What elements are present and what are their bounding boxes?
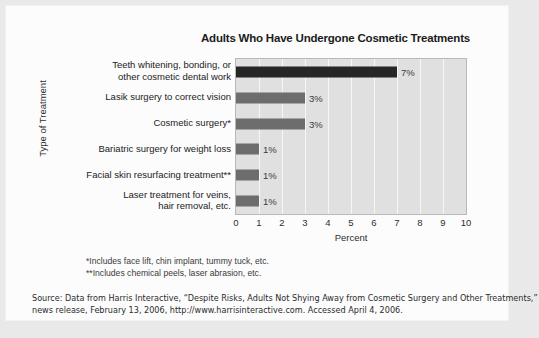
bar [236, 66, 397, 77]
x-tick-label: 5 [348, 217, 353, 228]
x-axis-title: Percent [235, 232, 467, 243]
bar [236, 196, 259, 207]
bar [236, 118, 305, 129]
x-tick-label: 6 [371, 217, 376, 228]
bar-row: 1% [236, 188, 466, 214]
bar-value-label: 1% [263, 196, 277, 207]
category-label: Bariatric surgery for weight loss [51, 143, 231, 155]
bar-row: 7% [236, 59, 466, 85]
footnote-two: **Includes chemical peels, laser abrasio… [86, 268, 261, 278]
bar-value-label: 3% [309, 92, 323, 103]
bar [236, 170, 259, 181]
source-line-2: news release, February 13, 2006, http://… [32, 305, 502, 317]
x-tick-label: 2 [279, 217, 284, 228]
x-tick-label: 1 [256, 217, 261, 228]
plot-area: 7%3%3%1%1%1% [235, 58, 467, 215]
page-background: Adults Who Have Undergone Cosmetic Treat… [0, 0, 539, 338]
bar-row: 3% [236, 85, 466, 111]
x-tick-label: 3 [302, 217, 307, 228]
x-tick-label: 9 [440, 217, 445, 228]
bar-value-label: 7% [401, 66, 415, 77]
x-tick-label: 4 [325, 217, 330, 228]
footnote-one: *Includes face lift, chin implant, tummy… [86, 256, 269, 266]
bar [236, 144, 259, 155]
x-tick-label: 10 [461, 217, 472, 228]
category-label: Teeth whitening, bonding, or other cosme… [51, 59, 231, 82]
x-tick-label: 0 [233, 217, 238, 228]
y-axis-title: Type of Treatment [37, 59, 48, 179]
figure-panel: Adults Who Have Undergone Cosmetic Treat… [6, 6, 508, 320]
category-label: Laser treatment for veins, hair removal,… [51, 189, 231, 212]
category-label: Lasik surgery to correct vision [51, 91, 231, 103]
bar-value-label: 1% [263, 144, 277, 155]
bar-value-label: 1% [263, 170, 277, 181]
chart-title: Adults Who Have Undergone Cosmetic Treat… [201, 32, 467, 44]
bar [236, 92, 305, 103]
x-tick-label: 7 [394, 217, 399, 228]
bar-value-label: 3% [309, 118, 323, 129]
category-label: Cosmetic surgery* [51, 117, 231, 129]
source-citation: Source: Data from Harris Interactive, “D… [32, 293, 502, 316]
bar-row: 3% [236, 111, 466, 137]
bar-row: 1% [236, 162, 466, 188]
bar-row: 1% [236, 137, 466, 163]
x-axis-ticks: 012345678910 [235, 217, 467, 231]
source-line-1: Source: Data from Harris Interactive, “D… [32, 293, 502, 305]
category-axis-labels: Teeth whitening, bonding, or other cosme… [49, 58, 231, 215]
x-tick-label: 8 [417, 217, 422, 228]
category-label: Facial skin resurfacing treatment** [51, 169, 231, 181]
